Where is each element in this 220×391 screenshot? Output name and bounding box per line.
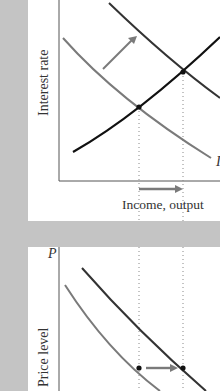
islm-chart [28,0,220,221]
y-axis-label-price-level: Price level [36,328,52,387]
y-axis-label-interest-rate: Interest rate [36,50,52,116]
ad-chart [28,247,220,391]
output-arrow-head-icon [175,185,183,193]
ad-point-initial [136,365,141,370]
is-curve-label: I [216,154,220,170]
ad-curve-shifted [82,268,206,391]
equilibrium-point-shifted [180,69,185,74]
ad-panel: P Price level [28,247,220,391]
lm-curve [73,37,220,152]
is-curve-initial [63,38,211,158]
x-axis-label-income-output: Income, output [122,197,204,213]
equilibrium-point-initial [136,104,141,109]
islm-panel: Interest rate I Income, output [28,0,220,221]
y-axis-symbol-p: P [48,246,57,262]
is-curve-shifted [109,3,220,98]
shift-arrow-line [103,40,132,69]
ad-point-shifted [180,365,185,370]
